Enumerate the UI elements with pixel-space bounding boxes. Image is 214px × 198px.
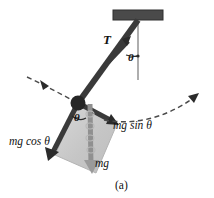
mg-sin-theta-label: mg sin θ — [113, 120, 152, 132]
mg-label: mg — [95, 158, 109, 170]
angle-top-marker — [136, 54, 139, 57]
angle-theta-top-label: θ — [128, 52, 134, 63]
swing-direction-arc-right — [104, 93, 199, 122]
swing-direction-arc-left — [27, 77, 72, 100]
mg-cos-theta-label: mg cos θ — [9, 136, 50, 148]
figure-caption: (a) — [115, 180, 128, 192]
tension-label: T — [103, 33, 111, 46]
ceiling-support-bar — [113, 10, 163, 20]
angle-theta-bob-label: θ — [74, 112, 80, 123]
physics-pendulum-figure: T θ θ mg sin θ mg cos θ mg (a) — [0, 0, 214, 198]
pendulum-bob — [71, 96, 86, 111]
